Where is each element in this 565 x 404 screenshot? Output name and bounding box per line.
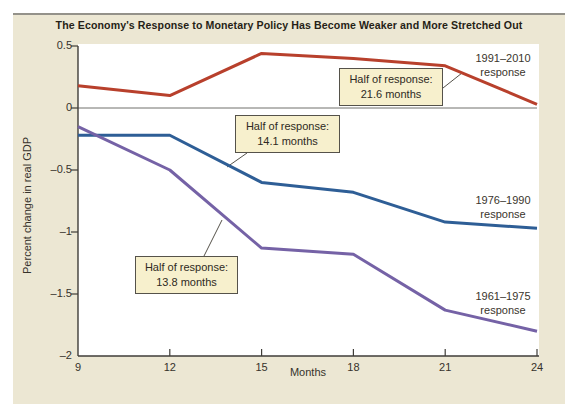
series-label-1991-2010: 1991–2010 response xyxy=(464,52,542,79)
figure-title: The Economy's Response to Monetary Polic… xyxy=(13,19,565,31)
series-label-years: 1961–1975 xyxy=(464,290,542,304)
y-tick-label: 0.5 xyxy=(32,39,72,51)
series-label-years: 1991–2010 xyxy=(464,52,542,66)
callout-half-response-13-8: Half of response: 13.8 months xyxy=(135,256,238,294)
y-tick-label: –1.5 xyxy=(32,287,72,299)
callout-line2: 14.1 months xyxy=(236,134,339,149)
x-tick-label: 24 xyxy=(517,361,557,373)
series-label-years: 1976–1990 xyxy=(464,194,542,208)
x-tick-label: 9 xyxy=(58,361,98,373)
y-tick-label: 0 xyxy=(32,101,72,113)
x-tick-label: 12 xyxy=(150,361,190,373)
textbook-figure-page: The Economy's Response to Monetary Polic… xyxy=(0,0,565,404)
x-tick-label: 15 xyxy=(242,361,282,373)
callout-line2: 13.8 months xyxy=(136,275,237,290)
callout-line1: Half of response: xyxy=(340,72,442,87)
callout-line2: 21.6 months xyxy=(340,87,442,102)
x-tick-label: 18 xyxy=(333,361,373,373)
y-tick-label: –2 xyxy=(32,349,72,361)
series-label-response: response xyxy=(464,304,542,318)
callout-half-response-21-6: Half of response: 21.6 months xyxy=(339,68,443,106)
series-label-1961-1975: 1961–1975 response xyxy=(464,290,542,317)
series-label-response: response xyxy=(464,66,542,80)
x-axis-title: Months xyxy=(208,366,408,378)
y-axis-title: Percent change in real GDP xyxy=(21,125,36,287)
callout-line1: Half of response: xyxy=(136,260,237,275)
y-tick-label: –0.5 xyxy=(32,163,72,175)
series-label-1976-1990: 1976–1990 response xyxy=(464,194,542,221)
y-tick-label: –1 xyxy=(32,225,72,237)
x-tick-label: 21 xyxy=(425,361,465,373)
series-label-response: response xyxy=(464,208,542,222)
callout-line1: Half of response: xyxy=(236,119,339,134)
callout-half-response-14-1: Half of response: 14.1 months xyxy=(235,115,340,153)
